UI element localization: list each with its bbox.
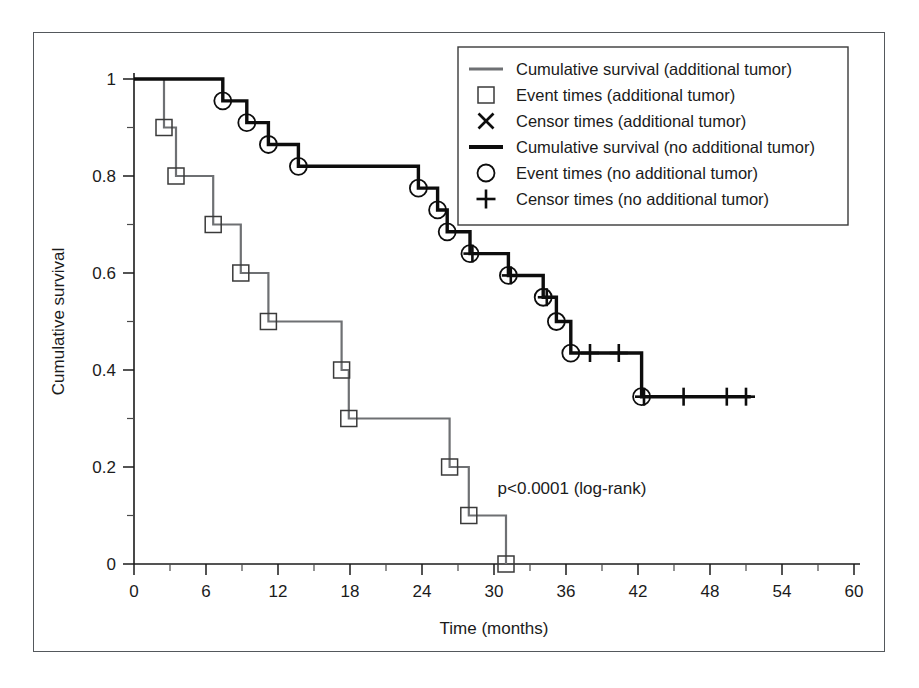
- y-tick-label: 1: [107, 70, 116, 89]
- legend-entry[interactable]: Event times (additional tumor): [478, 86, 735, 104]
- y-tick-label: 0.2: [92, 458, 116, 477]
- x-axis-title: Time (months): [440, 619, 549, 638]
- legend-entry-label: Event times (additional tumor): [516, 86, 735, 104]
- x-tick-label: 0: [129, 582, 138, 601]
- x-tick-label: 60: [845, 582, 864, 601]
- x-tick-label: 24: [413, 582, 432, 601]
- legend-entry-label: Censor times (additional tumor): [516, 112, 746, 130]
- x-tick-label: 54: [773, 582, 792, 601]
- figure-page: 0612182430364248546000.20.40.60.81Time (…: [0, 0, 919, 688]
- legend-entry[interactable]: Event times (no additional tumor): [478, 164, 759, 182]
- x-tick-label: 48: [701, 582, 720, 601]
- legend-entry[interactable]: Cumulative survival (no additional tumor…: [469, 138, 815, 156]
- censor-marker-plus: [737, 388, 755, 406]
- censor-marker-plus: [463, 245, 481, 263]
- legend-entry[interactable]: Cumulative survival (additional tumor): [469, 60, 792, 78]
- curve-additional-tumor: [134, 79, 506, 564]
- kaplan-meier-chart: 0612182430364248546000.20.40.60.81Time (…: [34, 33, 883, 650]
- legend-entry[interactable]: Censor times (no additional tumor): [477, 190, 770, 209]
- censor-marker-plus: [718, 388, 736, 406]
- censor-marker-plus: [610, 344, 628, 362]
- legend-entry[interactable]: Censor times (additional tumor): [479, 112, 747, 130]
- censor-marker-plus: [581, 344, 599, 362]
- x-tick-label: 30: [485, 582, 504, 601]
- x-tick-label: 18: [341, 582, 360, 601]
- y-tick-label: 0: [107, 555, 116, 574]
- legend-entry-label: Event times (no additional tumor): [516, 164, 758, 182]
- legend-entry-label: Cumulative survival (no additional tumor…: [516, 138, 815, 156]
- y-tick-label: 0.4: [92, 361, 116, 380]
- legend-entry-label: Censor times (no additional tumor): [516, 190, 769, 208]
- censor-marker-plus: [502, 266, 520, 284]
- y-axis-title: Cumulative survival: [49, 248, 68, 395]
- pvalue-annotation: p<0.0001 (log-rank): [498, 479, 647, 498]
- y-tick-label: 0.6: [92, 264, 116, 283]
- x-tick-label: 6: [201, 582, 210, 601]
- x-tick-label: 12: [269, 582, 288, 601]
- censor-marker-plus: [675, 388, 693, 406]
- censor-marker-plus: [635, 388, 653, 406]
- x-tick-label: 42: [629, 582, 648, 601]
- legend-entry-label: Cumulative survival (additional tumor): [516, 60, 792, 78]
- figure-frame: 0612182430364248546000.20.40.60.81Time (…: [33, 32, 885, 652]
- x-tick-label: 36: [557, 582, 576, 601]
- y-tick-label: 0.8: [92, 167, 116, 186]
- censor-marker-plus: [538, 288, 556, 306]
